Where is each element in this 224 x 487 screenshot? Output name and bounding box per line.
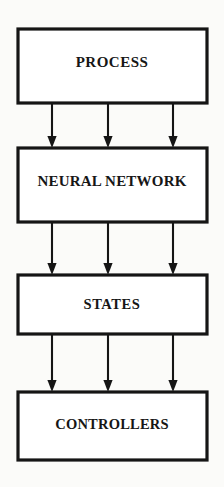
arrow-connector	[103, 222, 112, 275]
arrow-connector	[47, 103, 56, 148]
connector-group-process-to-neural	[47, 103, 177, 148]
arrow-connector	[47, 334, 56, 392]
block-label-states: STATES	[0, 296, 224, 313]
connector-group-states-to-controllers	[47, 334, 177, 392]
diagram-canvas: PROCESS NEURAL NETWORK STATES CONTROLLER…	[0, 0, 224, 487]
block-label-neural-network: NEURAL NETWORK	[0, 173, 224, 190]
connector-group-neural-to-states	[47, 222, 177, 275]
block-label-controllers: CONTROLLERS	[0, 416, 224, 433]
arrow-connector	[168, 334, 177, 392]
arrow-connector	[168, 103, 177, 148]
arrow-connector	[168, 222, 177, 275]
arrow-connector	[47, 222, 56, 275]
arrow-connector	[103, 103, 112, 148]
block-label-process: PROCESS	[0, 54, 224, 71]
arrow-connector	[103, 334, 112, 392]
diagram-graphics	[0, 0, 224, 487]
